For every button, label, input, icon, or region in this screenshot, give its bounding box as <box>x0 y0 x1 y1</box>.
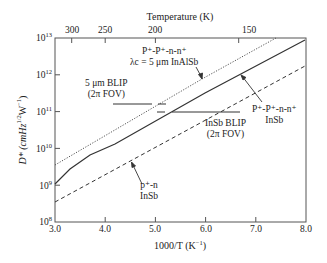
annotation-insb-ppnn-line1: P⁺-P⁺-n-n⁺ <box>252 104 297 115</box>
annotation-insb-blip-line1: InSb BLIP <box>205 118 246 129</box>
top-tick-label: 200 <box>148 26 162 36</box>
annotation-pn-insb: p⁺-n InSb <box>140 180 158 202</box>
annotation-inalsb: P⁺-P⁺-n-n⁺ λc = 5 μm InAlSb <box>130 46 198 68</box>
top-tick-label: 250 <box>98 26 112 36</box>
x-tick-label: 6.0 <box>200 225 212 235</box>
x-axis-title: 1000/T (K−1) <box>154 240 206 251</box>
annotation-inalsb-line2: λc = 5 μm InAlSb <box>130 57 198 68</box>
annotation-5um-blip-line1: 5 μm BLIP <box>85 78 128 89</box>
annotation-pn-line1: p⁺-n <box>140 180 158 191</box>
y-tick-label: 1013 <box>36 32 52 44</box>
x-ticks <box>105 217 256 222</box>
x-tick-label: 7.0 <box>250 225 262 235</box>
annotation-insb-ppnn-line2: InSb <box>252 115 297 126</box>
annotation-5um-blip: 5 μm BLIP (2π FOV) <box>85 78 128 100</box>
y-axis-title: D* (cmHz1/2W−1) <box>16 96 27 165</box>
top-axis-title: Temperature (K) <box>147 12 214 22</box>
y-tick-label: 1011 <box>36 106 52 118</box>
annotation-5um-blip-line2: (2π FOV) <box>85 89 128 100</box>
top-ticks <box>72 38 239 43</box>
annotation-insb-blip: InSb BLIP (2π FOV) <box>205 118 246 140</box>
x-tick-label: 5.0 <box>149 225 161 235</box>
top-tick-label: 300 <box>65 26 79 36</box>
x-tick-label: 8.0 <box>300 225 312 235</box>
y-tick-label: 109 <box>39 180 52 192</box>
x-tick-label: 4.0 <box>99 225 111 235</box>
y-tick-label: 1012 <box>36 69 52 81</box>
y-ticks <box>55 75 60 185</box>
x-tick-label: 3.0 <box>49 225 61 235</box>
annotation-insb-ppnn: P⁺-P⁺-n-n⁺ InSb <box>252 104 297 126</box>
annotation-insb-blip-line2: (2π FOV) <box>205 129 246 140</box>
annotation-inalsb-line1: P⁺-P⁺-n-n⁺ <box>130 46 198 57</box>
annotation-pn-line2: InSb <box>140 191 158 202</box>
y-tick-label: 1010 <box>36 143 52 155</box>
top-tick-label: 150 <box>242 26 256 36</box>
